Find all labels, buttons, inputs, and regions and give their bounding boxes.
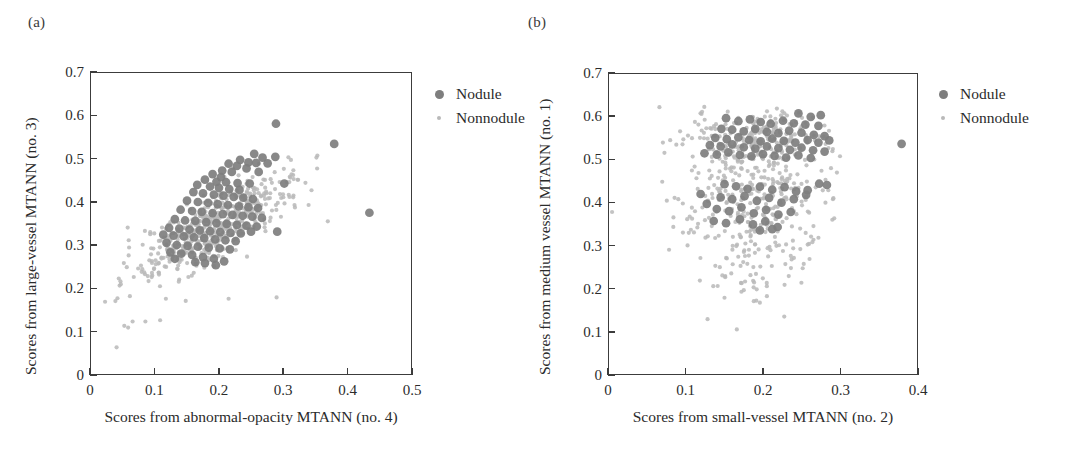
data-point-nonnodule xyxy=(770,264,774,268)
data-point-nodule xyxy=(176,205,185,214)
data-point-nonnodule xyxy=(119,282,123,286)
data-point-nodule xyxy=(233,220,242,229)
data-point-nonnodule xyxy=(754,272,758,276)
data-point-nodule xyxy=(702,199,711,208)
y-tick xyxy=(90,115,97,117)
data-point-nodule xyxy=(720,180,729,189)
data-point-nonnodule xyxy=(771,167,775,171)
data-point-nonnodule xyxy=(752,299,756,303)
data-point-nodule xyxy=(218,210,227,219)
data-point-nonnodule xyxy=(743,241,747,245)
data-point-nonnodule xyxy=(763,115,767,119)
data-point-nonnodule xyxy=(761,276,765,280)
data-point-nodule xyxy=(739,143,748,152)
data-point-nonnodule xyxy=(775,107,779,111)
y-tick xyxy=(608,374,615,376)
data-point-nodule xyxy=(815,179,824,188)
x-tick xyxy=(762,368,764,375)
plot-area-a xyxy=(90,72,412,375)
data-point-nonnodule xyxy=(287,195,291,199)
y-tick-label: 0.5 xyxy=(560,151,602,168)
data-point-nodule xyxy=(736,151,745,160)
data-point-nonnodule xyxy=(694,176,698,180)
data-point-nonnodule xyxy=(753,251,757,255)
data-point-nodule xyxy=(777,198,786,207)
data-point-nonnodule xyxy=(281,192,285,196)
data-point-nonnodule xyxy=(713,236,717,240)
y-tick xyxy=(608,72,615,74)
data-point-nonnodule xyxy=(784,242,788,246)
data-point-nonnodule xyxy=(762,169,766,173)
data-point-nonnodule xyxy=(680,142,684,146)
y-tick-label: 0.4 xyxy=(42,193,84,210)
data-point-nodule xyxy=(768,134,777,143)
data-point-nonnodule xyxy=(764,202,768,206)
y-tick xyxy=(90,71,97,73)
figure-scatter-pair: (a) 00.10.20.30.40.50.60.700.10.20.30.40… xyxy=(0,0,1075,460)
data-point-nonnodule xyxy=(778,171,782,175)
data-point-nonnodule xyxy=(282,201,286,205)
data-point-nonnodule xyxy=(247,192,251,196)
data-point-nonnodule xyxy=(740,281,744,285)
data-point-nonnodule xyxy=(753,242,757,246)
data-point-nonnodule xyxy=(610,210,614,214)
data-point-nonnodule xyxy=(729,271,733,275)
data-point-nonnodule xyxy=(152,267,156,271)
data-point-nonnodule xyxy=(787,274,791,278)
data-point-nonnodule xyxy=(717,234,721,238)
data-point-nonnodule xyxy=(793,132,797,136)
data-point-nodule xyxy=(709,217,718,226)
y-tick xyxy=(608,245,615,247)
data-point-nodule xyxy=(809,146,818,155)
data-point-nonnodule xyxy=(115,296,119,300)
x-tick xyxy=(607,368,609,375)
y-tick xyxy=(608,331,615,333)
data-point-nonnodule xyxy=(192,271,196,275)
data-point-nodule xyxy=(806,112,815,121)
data-point-nonnodule xyxy=(746,212,750,216)
data-point-nonnodule xyxy=(117,276,121,280)
data-point-nodule xyxy=(700,149,709,158)
data-point-nonnodule xyxy=(710,192,714,196)
data-point-nonnodule xyxy=(835,170,839,174)
data-point-nonnodule xyxy=(685,217,689,221)
data-point-nonnodule xyxy=(807,211,811,215)
data-point-nodule xyxy=(825,136,834,145)
data-point-nonnodule xyxy=(762,175,766,179)
data-point-nonnodule xyxy=(288,175,292,179)
data-point-nonnodule xyxy=(261,177,265,181)
data-point-nodule xyxy=(254,168,263,177)
data-point-nodule xyxy=(204,243,213,252)
data-point-nonnodule xyxy=(799,182,803,186)
data-point-nodule xyxy=(172,241,181,250)
x-tick-label: 0.4 xyxy=(909,382,928,399)
data-point-nodule xyxy=(211,235,220,244)
data-point-nonnodule xyxy=(702,136,706,140)
y-tick-label: 0 xyxy=(42,367,84,384)
data-point-nonnodule xyxy=(703,218,707,222)
data-point-nodule xyxy=(175,224,184,233)
data-point-nonnodule xyxy=(676,197,680,201)
data-point-nodule xyxy=(183,196,192,205)
y-tick xyxy=(90,331,97,333)
data-point-nodule xyxy=(711,133,720,142)
data-point-nonnodule xyxy=(264,190,268,194)
data-point-nonnodule xyxy=(661,140,665,144)
data-point-nodule xyxy=(724,148,733,157)
x-tick xyxy=(282,368,284,375)
data-point-nodule xyxy=(814,138,823,147)
data-point-nonnodule xyxy=(766,177,770,181)
data-point-nonnodule xyxy=(831,147,835,151)
data-point-nonnodule xyxy=(149,252,153,256)
data-point-nodule xyxy=(823,181,832,190)
x-axis-title-a: Scores from abnormal-opacity MTANN (no. … xyxy=(104,408,397,426)
data-point-nodule xyxy=(712,150,721,159)
x-axis-title-b: Scores from small-vessel MTANN (no. 2) xyxy=(633,408,894,426)
data-point-nodule xyxy=(762,127,771,136)
y-tick-label: 0.4 xyxy=(560,194,602,211)
data-point-nonnodule xyxy=(757,247,761,251)
data-point-nonnodule xyxy=(126,325,130,329)
data-point-nodule xyxy=(330,140,339,149)
y-tick-label: 0.2 xyxy=(560,280,602,297)
data-point-nonnodule xyxy=(823,201,827,205)
